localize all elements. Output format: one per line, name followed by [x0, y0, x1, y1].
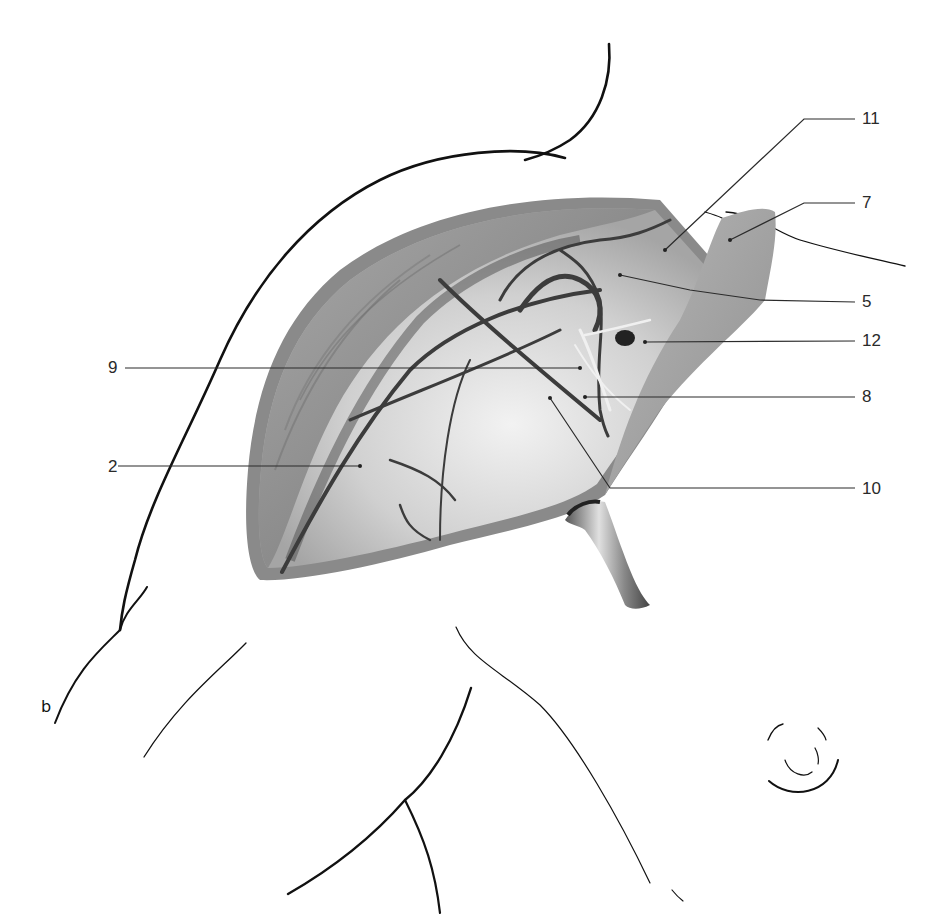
- anatomical-illustration: 11 7 5 12 9 8 2 10 b: [0, 0, 945, 917]
- label-11: 11: [862, 109, 880, 128]
- nipple-icon: [768, 724, 838, 792]
- label-9: 9: [108, 358, 117, 377]
- retractor-icon: [565, 502, 650, 609]
- label-12: 12: [862, 331, 881, 350]
- label-8: 8: [862, 387, 871, 406]
- label-10: 10: [862, 479, 881, 498]
- label-7: 7: [862, 193, 871, 212]
- label-2: 2: [108, 457, 117, 476]
- panel-label: b: [41, 697, 51, 716]
- label-5: 5: [862, 292, 871, 311]
